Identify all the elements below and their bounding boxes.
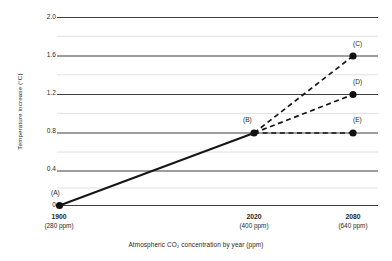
data-point-label-c: (C) — [353, 40, 362, 47]
x-tick-2020-ppm: (400 ppm) — [209, 221, 299, 230]
x-tick-2020: 2020 (400 ppm) — [209, 212, 299, 230]
x-axis-title: Atmospheric CO₂ concentration by year (p… — [0, 241, 392, 248]
x-tick-2080-year: 2080 — [308, 212, 392, 221]
data-point-label-a: (A) — [51, 189, 60, 196]
x-tick-2080-ppm: (640 ppm) — [308, 221, 392, 230]
data-point-label-d: (D) — [353, 78, 362, 85]
data-point-a — [56, 202, 63, 209]
x-tick-1900: 1900 (280 ppm) — [14, 212, 104, 230]
data-point-e — [349, 129, 356, 136]
x-tick-2080: 2080 (640 ppm) — [308, 212, 392, 230]
data-point-label-b: (B) — [243, 116, 252, 123]
x-tick-1900-year: 1900 — [14, 212, 104, 221]
data-point-b — [250, 129, 257, 136]
major-gridlines — [57, 18, 378, 206]
data-point-d — [349, 91, 356, 98]
minor-gridlines — [57, 36, 378, 188]
chart-container: Temperature increase (°C) 2.0 1.6 1.2 0.… — [0, 0, 392, 261]
data-point-label-e: (E) — [353, 116, 362, 123]
series-line-observed — [60, 133, 255, 206]
x-tick-1900-ppm: (280 ppm) — [14, 221, 104, 230]
data-point-c — [349, 52, 356, 59]
x-tick-2020-year: 2020 — [209, 212, 299, 221]
